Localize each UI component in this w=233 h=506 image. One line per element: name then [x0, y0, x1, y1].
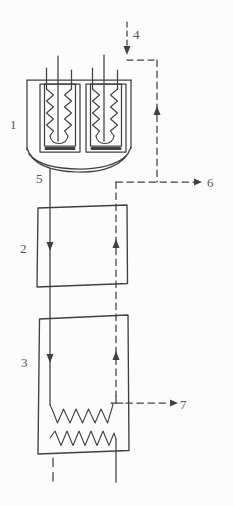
label-stream-4: 4 [133, 27, 140, 42]
flow-diagram-svg: 1 2 3 4 5 6 7 [0, 0, 233, 506]
label-stream-6: 6 [207, 175, 214, 190]
label-unit-2: 2 [20, 241, 27, 256]
label-unit-3: 3 [21, 355, 28, 370]
label-stream-7: 7 [180, 397, 187, 412]
label-stream-5: 5 [36, 171, 43, 186]
diagram-canvas: 1 2 3 4 5 6 7 [0, 0, 233, 506]
label-unit-1: 1 [10, 117, 17, 132]
